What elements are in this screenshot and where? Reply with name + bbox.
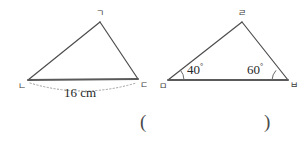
angle-label-60-degrees: 60° <box>247 63 263 76</box>
answer-blank[interactable]: ( ) <box>140 112 270 132</box>
vertex-label-triangle-right-bottom-left: ㅁ <box>159 82 167 91</box>
degree-symbol-icon-2: ° <box>260 62 263 71</box>
geometry-figure: ㄱ ㄴ ㄷ 16 cm ㄹ ㅁ ㅂ 40° 60° ( ) <box>0 0 307 141</box>
answer-open-paren: ( <box>140 112 146 131</box>
vertex-label-triangle-left-bottom-right: ㄷ <box>140 81 148 90</box>
triangle-left-side-right <box>100 22 138 79</box>
angle-label-40-degrees: 40° <box>187 63 203 76</box>
angle-arc-40 <box>180 70 184 80</box>
angle-value-40: 40 <box>187 62 200 77</box>
vertex-label-triangle-left-apex: ㄱ <box>96 9 104 18</box>
triangle-left <box>28 22 138 91</box>
measure-label-16cm: 16 cm <box>64 86 96 99</box>
vertex-label-triangle-left-bottom-left: ㄴ <box>18 82 26 91</box>
triangle-right-side-left <box>168 22 242 80</box>
vertex-label-triangle-right-apex: ㄹ <box>238 9 246 18</box>
angle-value-60: 60 <box>247 62 260 77</box>
triangle-left-side-left <box>28 22 100 80</box>
angle-arc-60 <box>272 70 276 80</box>
triangle-right <box>168 22 288 80</box>
degree-symbol-icon: ° <box>200 62 203 71</box>
triangle-left-base <box>28 79 138 80</box>
answer-close-paren: ) <box>264 112 270 131</box>
vertex-label-triangle-right-bottom-right: ㅂ <box>290 81 298 90</box>
